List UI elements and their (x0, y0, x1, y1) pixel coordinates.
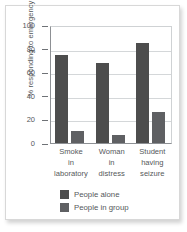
x-axis-category-label: Womanindistress (89, 146, 135, 179)
y-tick-label: 0 (5, 140, 35, 148)
y-axis-ticks: 100806040200 (12, 26, 43, 144)
bar (136, 43, 149, 143)
legend-label: People in group (74, 204, 129, 212)
bar (112, 135, 125, 143)
y-tick-mark (42, 120, 48, 121)
y-tick-mark (42, 49, 48, 50)
category-label-line: seizure (129, 168, 175, 179)
legend-swatch (60, 203, 69, 212)
y-tick-mark (42, 73, 48, 74)
legend-swatch (60, 190, 69, 199)
chart-figure: % responding to emergency 100806040200 S… (0, 0, 187, 232)
category-label-line: Student (129, 146, 175, 157)
category-label-line: Woman (89, 146, 135, 157)
category-label-line: in (89, 157, 135, 168)
y-tick-label: 100 (5, 22, 35, 30)
bar (96, 63, 109, 143)
chart-legend: People alonePeople in group (60, 189, 129, 215)
legend-label: People alone (74, 191, 120, 199)
x-axis-category-label: Studenthavingseizure (129, 146, 175, 179)
bar (55, 55, 68, 144)
category-label-line: Smoke (48, 146, 94, 157)
category-label-line: having (129, 157, 175, 168)
y-tick-label: 80 (5, 46, 35, 54)
bar (71, 131, 84, 143)
x-axis-category-label: Smokeinlaboratory (48, 146, 94, 179)
category-label-line: laboratory (48, 168, 94, 179)
category-label-line: distress (89, 168, 135, 179)
y-tick-mark (42, 96, 48, 97)
y-tick-mark (42, 144, 48, 145)
y-tick-label: 40 (5, 93, 35, 101)
y-tick-mark (42, 26, 48, 27)
y-tick-label: 60 (5, 69, 35, 77)
y-tick-label: 20 (5, 116, 35, 124)
plot-area (50, 26, 172, 144)
chart-frame: % responding to emergency 100806040200 S… (5, 5, 180, 220)
bar (152, 112, 165, 143)
bar-group-container (51, 27, 171, 143)
x-axis-category-labels: SmokeinlaboratoryWomanindistressStudenth… (46, 146, 178, 182)
category-label-line: in (48, 157, 94, 168)
legend-item[interactable]: People alone (60, 189, 129, 200)
legend-item[interactable]: People in group (60, 202, 129, 213)
